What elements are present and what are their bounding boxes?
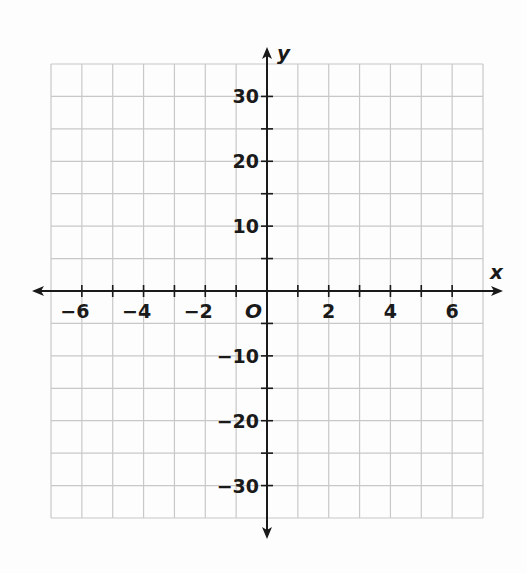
y-tick-label: 30 — [233, 85, 259, 107]
x-tick-label: 2 — [322, 300, 335, 322]
x-tick-label: −4 — [122, 300, 151, 322]
y-tick-label: 20 — [233, 150, 259, 172]
x-axis-label: x — [489, 260, 504, 284]
x-tick-label: 4 — [384, 300, 397, 322]
coordinate-plane: −6−4−2246302010−10−20−30 x y O — [0, 0, 527, 573]
x-tick-label: 6 — [446, 300, 459, 322]
y-tick-label: −10 — [217, 345, 259, 367]
y-tick-label: −30 — [217, 475, 259, 497]
y-tick-label: 10 — [233, 215, 259, 237]
y-tick-label: −20 — [217, 410, 259, 432]
y-axis-label: y — [277, 41, 291, 65]
axes — [32, 47, 503, 539]
x-tick-label: −6 — [60, 300, 89, 322]
x-tick-label: −2 — [184, 300, 213, 322]
origin-label: O — [245, 299, 262, 323]
